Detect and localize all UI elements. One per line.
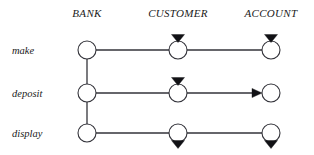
node-make-customer[interactable] (169, 41, 187, 59)
triangle-down-icon-make-customer (172, 35, 185, 43)
triangle-down-icon-display-account (265, 141, 278, 149)
node-make-account[interactable] (262, 41, 280, 59)
row-label-display: display (12, 128, 43, 139)
column-header-account: ACCOUNT (244, 7, 298, 19)
node-make-bank[interactable] (78, 41, 96, 59)
row-label-group: make deposit display (12, 45, 43, 139)
diagram-canvas: BANK CUSTOMER ACCOUNT make deposit displ… (0, 0, 314, 155)
column-header-group: BANK CUSTOMER ACCOUNT (72, 7, 298, 19)
triangle-down-icon-deposit-customer (172, 78, 185, 86)
triangle-down-icon-display-customer (172, 141, 185, 149)
node-display-customer[interactable] (169, 124, 187, 142)
node-deposit-customer[interactable] (169, 84, 187, 102)
node-deposit-account[interactable] (262, 84, 280, 102)
node-deposit-bank[interactable] (78, 84, 96, 102)
arrowhead-deposit-account (252, 88, 262, 97)
node-group (78, 41, 280, 142)
triangle-down-icon-make-account (265, 35, 278, 43)
node-display-account[interactable] (262, 124, 280, 142)
node-display-bank[interactable] (78, 124, 96, 142)
interaction-diagram: BANK CUSTOMER ACCOUNT make deposit displ… (0, 0, 314, 155)
column-header-bank: BANK (72, 7, 102, 19)
row-label-deposit: deposit (12, 88, 43, 99)
row-label-make: make (12, 45, 34, 56)
column-header-customer: CUSTOMER (148, 7, 208, 19)
